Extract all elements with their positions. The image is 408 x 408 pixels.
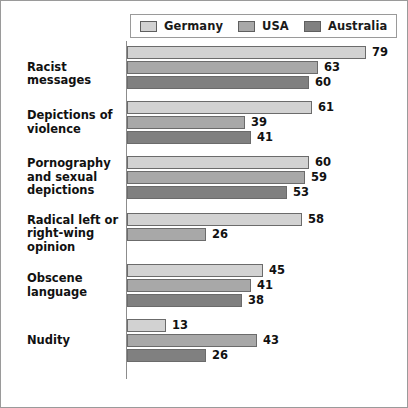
legend-swatch-icon	[238, 21, 255, 32]
bar-germany	[127, 101, 312, 114]
bar-usa	[127, 61, 318, 74]
bar-value-label: 59	[311, 170, 327, 184]
bar-australia	[127, 186, 287, 199]
legend-entry-germany: Germany	[140, 19, 223, 33]
category-label-line: right-wing opinion	[27, 227, 123, 254]
bar-usa	[127, 171, 305, 184]
chart-frame: GermanyUSAAustralia Racist messages79636…	[0, 0, 408, 408]
category-label-line: Depictions of	[27, 109, 123, 123]
bar-value-label: 79	[372, 45, 388, 59]
bar-australia	[127, 294, 242, 307]
bar-germany	[127, 46, 366, 59]
chart-legend: GermanyUSAAustralia	[130, 14, 397, 38]
category-label-line: violence	[27, 123, 123, 137]
bar-value-label: 13	[172, 318, 188, 332]
bar-australia	[127, 131, 251, 144]
bar-value-label: 60	[315, 155, 331, 169]
legend-entry-australia: Australia	[304, 19, 387, 33]
bar-germany	[127, 213, 302, 226]
bar-value-label: 58	[308, 212, 324, 226]
category-label: Racist messages	[27, 61, 123, 88]
bar-usa	[127, 228, 206, 241]
chart-plot-area: Racist messages796360Depictions ofviolen…	[1, 41, 408, 381]
bar-value-label: 61	[318, 100, 334, 114]
bar-value-label: 41	[257, 278, 273, 292]
bar-usa	[127, 279, 251, 292]
bar-value-label: 38	[248, 293, 264, 307]
category-label-line: language	[27, 286, 123, 300]
category-label: Nudity	[27, 334, 123, 348]
category-label-line: depictions	[27, 184, 123, 198]
bar-germany	[127, 264, 263, 277]
bar-australia	[127, 76, 309, 89]
category-label-line: Pornography	[27, 157, 123, 171]
category-label: Radical left orright-wing opinion	[27, 214, 123, 255]
bar-value-label: 26	[212, 227, 228, 241]
legend-label: Germany	[164, 19, 223, 33]
legend-swatch-icon	[140, 21, 157, 32]
category-label: Pornographyand sexualdepictions	[27, 157, 123, 198]
bar-value-label: 60	[315, 75, 331, 89]
bar-usa	[127, 334, 257, 347]
legend-entry-usa: USA	[238, 19, 289, 33]
category-label-line: Radical left or	[27, 214, 123, 228]
legend-label: USA	[262, 19, 289, 33]
category-label-line: Nudity	[27, 334, 123, 348]
bar-usa	[127, 116, 245, 129]
bar-value-label: 53	[293, 185, 309, 199]
bar-value-label: 26	[212, 348, 228, 362]
bar-germany	[127, 319, 166, 332]
category-label: Obscenelanguage	[27, 272, 123, 299]
category-label-line: and sexual	[27, 171, 123, 185]
category-label-line: Racist messages	[27, 61, 123, 88]
bar-value-label: 45	[269, 263, 285, 277]
category-label: Depictions ofviolence	[27, 109, 123, 136]
bar-value-label: 43	[263, 333, 279, 347]
legend-label: Australia	[328, 19, 387, 33]
bar-value-label: 39	[251, 115, 267, 129]
bar-germany	[127, 156, 309, 169]
legend-swatch-icon	[304, 21, 321, 32]
category-label-line: Obscene	[27, 272, 123, 286]
bar-value-label: 63	[324, 60, 340, 74]
bar-australia	[127, 349, 206, 362]
bar-value-label: 41	[257, 130, 273, 144]
